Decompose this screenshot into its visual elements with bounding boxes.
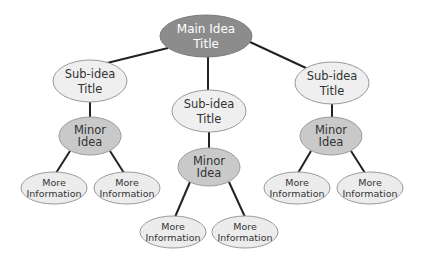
sub-idea-line2: Title — [77, 82, 103, 96]
connector-minor-info-left-1 — [56, 151, 70, 173]
connector-minor-info-center-1 — [175, 182, 190, 217]
info-node-left-1: More Information — [21, 172, 87, 204]
info-node-right-2: More Information — [337, 172, 403, 204]
info-line1: More — [161, 221, 185, 232]
sub-idea-line2: Title — [319, 84, 345, 98]
info-line1: More — [115, 177, 139, 188]
sub-idea-line2: Title — [196, 112, 222, 126]
connector-minor-info-center-2 — [229, 182, 245, 217]
info-line1: More — [233, 221, 257, 232]
info-line2: Information — [270, 188, 325, 199]
info-line2: Information — [27, 188, 82, 199]
connector-main-sub-right — [250, 42, 306, 68]
info-line2: Information — [218, 232, 273, 243]
connector-minor-info-right-1 — [298, 151, 311, 173]
info-line2: Information — [146, 232, 201, 243]
info-line1: More — [42, 177, 66, 188]
info-node-center-1: More Information — [140, 216, 206, 248]
info-node-left-2: More Information — [94, 172, 160, 204]
minor-idea-node-right: Minor Idea — [300, 117, 362, 155]
info-line2: Information — [100, 188, 155, 199]
connector-minor-info-left-2 — [110, 151, 124, 173]
minor-idea-line2: Idea — [78, 135, 103, 149]
sub-idea-node-center: Sub-idea Title — [172, 90, 246, 132]
sub-idea-line1: Sub-idea — [307, 69, 358, 83]
main-idea-line1: Main Idea — [177, 22, 235, 36]
minor-idea-node-left: Minor Idea — [59, 117, 121, 155]
sub-idea-line1: Sub-idea — [65, 67, 116, 81]
info-node-center-2: More Information — [212, 216, 278, 248]
concept-map-diagram: Main Idea Title Sub-idea Title Sub-idea … — [0, 0, 421, 264]
sub-idea-line1: Sub-idea — [184, 97, 235, 111]
main-idea-node: Main Idea Title — [160, 15, 252, 57]
info-line1: More — [358, 177, 382, 188]
minor-idea-line2: Idea — [319, 135, 344, 149]
minor-idea-node-center: Minor Idea — [178, 148, 240, 186]
minor-idea-line2: Idea — [197, 166, 222, 180]
connector-main-sub-left — [103, 48, 168, 64]
connector-minor-info-right-2 — [351, 151, 365, 173]
sub-idea-node-left: Sub-idea Title — [53, 60, 127, 102]
sub-idea-node-right: Sub-idea Title — [295, 62, 369, 104]
info-line1: More — [285, 177, 309, 188]
main-idea-line2: Title — [192, 37, 219, 51]
info-line2: Information — [343, 188, 398, 199]
info-node-right-1: More Information — [264, 172, 330, 204]
